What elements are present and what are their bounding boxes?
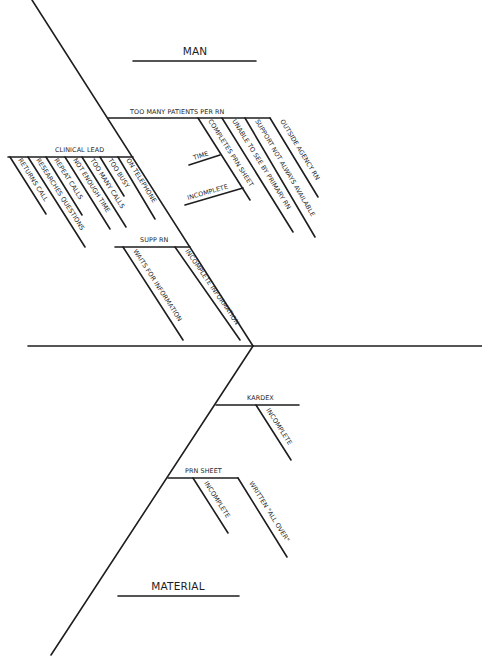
sub-cause-line bbox=[28, 157, 85, 247]
sub-cause-line bbox=[238, 478, 287, 557]
sub-cause-label: INCOMPLETE INFORMATION bbox=[183, 248, 241, 327]
sub-cause-line bbox=[222, 118, 293, 232]
sub-cause-label: COMPLETES PRN SHEET bbox=[206, 118, 255, 188]
sub-sub-cause-label: TIME bbox=[191, 149, 209, 162]
cause-supp-rn: SUPP RN WAITS FOR INFORMATION INCOMPLETE… bbox=[115, 236, 241, 340]
cause-label: PRN SHEET bbox=[185, 467, 222, 475]
cause-label: CLINICAL LEAD bbox=[55, 146, 104, 154]
category-material-label: MATERIAL bbox=[151, 580, 205, 592]
cause-kardex: KARDEX INCOMPLETE bbox=[216, 394, 299, 460]
sub-cause-label: WAITS FOR INFORMATION bbox=[131, 248, 183, 323]
cause-label: KARDEX bbox=[247, 394, 274, 402]
cause-label: TOO MANY PATIENTS PER RN bbox=[129, 108, 225, 116]
sub-cause-line bbox=[175, 247, 240, 340]
category-man-label: MAN bbox=[183, 45, 208, 57]
sub-cause-line bbox=[123, 247, 183, 340]
cause-label: SUPP RN bbox=[140, 236, 169, 244]
sub-cause-label: WRITTEN "ALL OVER" bbox=[247, 480, 291, 544]
category-man: MAN bbox=[133, 45, 256, 61]
category-material: MATERIAL bbox=[118, 580, 239, 596]
fishbone-diagram: MAN TOO MANY PATIENTS PER RN COMPLETES P… bbox=[0, 0, 482, 671]
cause-prn-sheet: PRN SHEET INCOMPLETE WRITTEN "ALL OVER" bbox=[168, 467, 291, 557]
